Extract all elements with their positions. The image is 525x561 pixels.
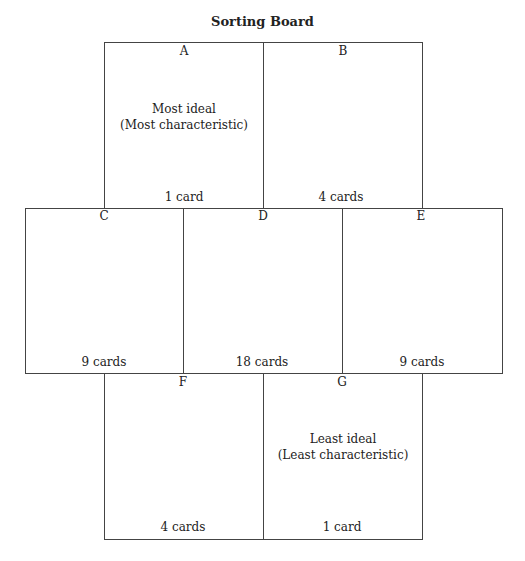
box-g-label: G — [312, 375, 372, 389]
box-a-desc-line1: Most ideal — [104, 101, 264, 117]
box-g-description: Least ideal (Least characteristic) — [263, 431, 423, 463]
box-a-description: Most ideal (Most characteristic) — [104, 101, 264, 133]
middle-block-bottom-edge — [25, 373, 503, 374]
box-f-label: F — [153, 375, 213, 389]
box-a-count: 1 card — [144, 190, 224, 204]
box-b-count: 4 cards — [301, 190, 381, 204]
middle-block-divider-1 — [183, 208, 184, 374]
board-title: Sorting Board — [0, 14, 525, 29]
box-c-label: C — [74, 209, 134, 223]
top-block-right-edge — [422, 42, 423, 208]
box-b-label: B — [313, 44, 373, 58]
box-d-count: 18 cards — [222, 355, 302, 369]
middle-block-divider-2 — [342, 208, 343, 374]
middle-block-right-edge — [502, 208, 503, 374]
box-a-label: A — [154, 44, 214, 58]
bottom-block-left-edge — [104, 373, 105, 540]
box-f-count: 4 cards — [143, 520, 223, 534]
box-g-count: 1 card — [302, 520, 382, 534]
middle-block-left-edge — [25, 208, 26, 374]
box-d-label: D — [233, 209, 293, 223]
box-g-desc-line1: Least ideal — [263, 431, 423, 447]
box-c-count: 9 cards — [64, 355, 144, 369]
box-e-count: 9 cards — [382, 355, 462, 369]
box-a-desc-line2: (Most characteristic) — [104, 117, 264, 133]
box-e-label: E — [391, 209, 451, 223]
box-g-desc-line2: (Least characteristic) — [263, 447, 423, 463]
